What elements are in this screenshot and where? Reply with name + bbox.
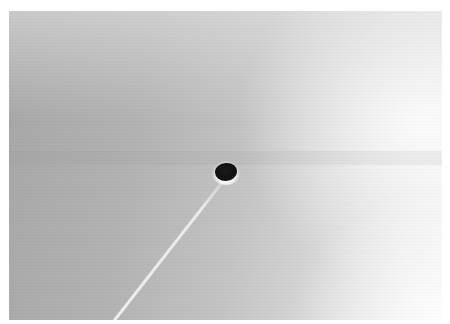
photo-frame [9, 11, 442, 320]
dark-spot [215, 163, 237, 181]
